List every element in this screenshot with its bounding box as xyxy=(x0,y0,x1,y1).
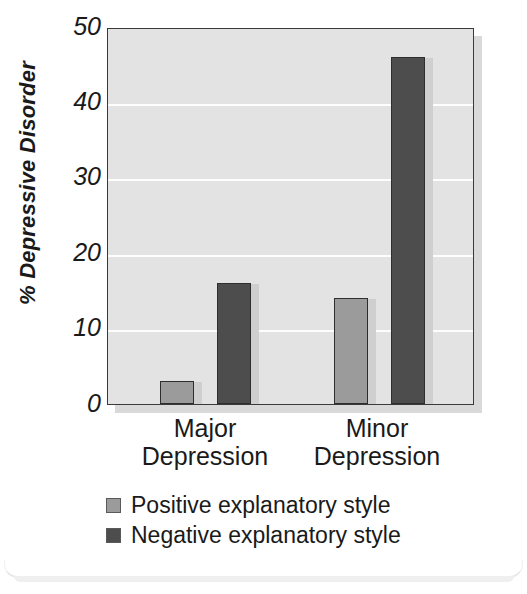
legend-swatch-icon-positive xyxy=(106,498,121,513)
scanned-page: % Depressive Disorder 50 40 30 20 10 0 xyxy=(0,0,527,594)
bar-minor-positive[interactable] xyxy=(334,298,368,404)
chart-legend: Positive explanatory style Negative expl… xyxy=(106,492,436,552)
plot-area xyxy=(107,28,474,405)
x-label-major-depression: Major Depression xyxy=(140,414,270,470)
legend-swatch-icon-negative xyxy=(106,528,121,543)
y-tick-50: 50 xyxy=(49,14,101,39)
bar-chart-figure: % Depressive Disorder 50 40 30 20 10 0 xyxy=(0,0,527,594)
legend-label-negative: Negative explanatory style xyxy=(131,522,401,549)
bar-minor-negative[interactable] xyxy=(391,57,425,404)
y-tick-10: 10 xyxy=(49,315,101,340)
x-label-line1: Major xyxy=(140,414,270,442)
x-label-minor-depression: Minor Depression xyxy=(312,414,442,470)
x-label-line1: Minor xyxy=(312,414,442,442)
y-axis-label: % Depressive Disorder xyxy=(15,33,41,333)
x-label-line2: Depression xyxy=(140,442,270,470)
y-tick-40: 40 xyxy=(49,89,101,114)
y-tick-30: 30 xyxy=(49,164,101,189)
y-axis-ticks: 50 40 30 20 10 0 xyxy=(39,28,101,405)
x-label-line2: Depression xyxy=(312,442,442,470)
bar-major-positive[interactable] xyxy=(160,381,194,404)
legend-label-positive: Positive explanatory style xyxy=(131,492,391,519)
y-tick-20: 20 xyxy=(49,240,101,265)
legend-item-positive[interactable]: Positive explanatory style xyxy=(106,492,436,519)
legend-item-negative[interactable]: Negative explanatory style xyxy=(106,522,436,549)
y-tick-0: 0 xyxy=(49,391,101,416)
bar-major-negative[interactable] xyxy=(217,283,251,404)
